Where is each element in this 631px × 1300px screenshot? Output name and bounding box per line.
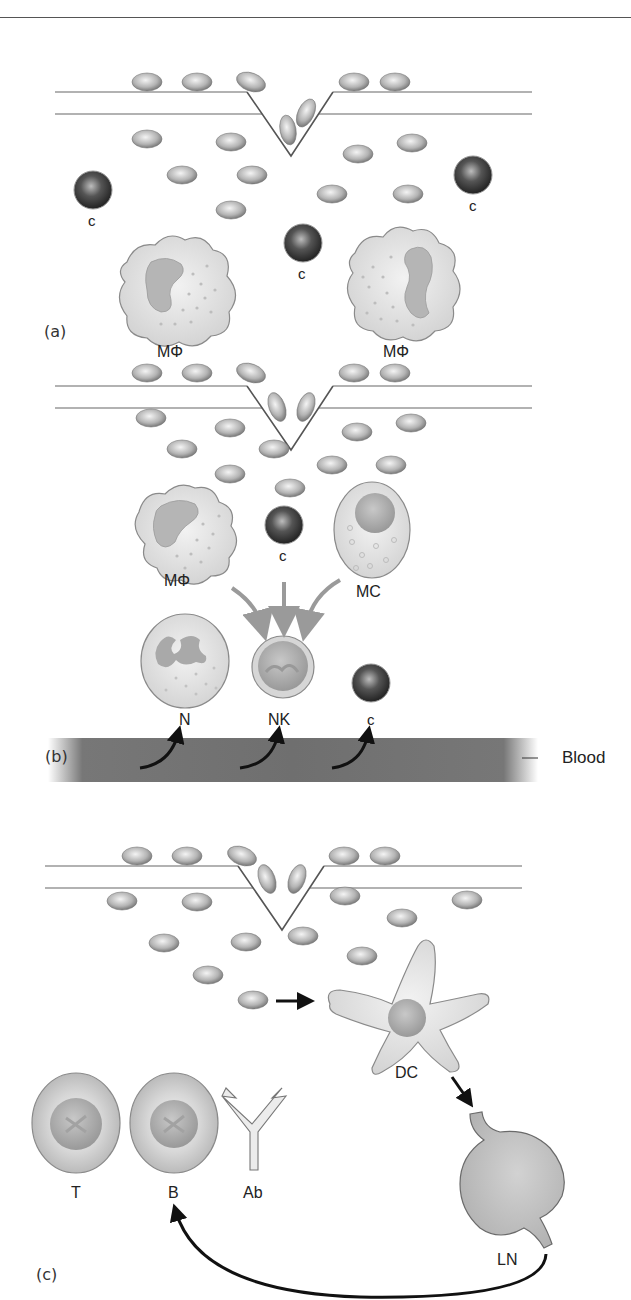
grey-arrows [232,580,340,626]
label-complement-b2: c [367,712,375,727]
microbe [284,862,309,896]
microbe [393,185,423,203]
microbe [234,359,268,386]
microbe [237,166,267,184]
neutrophil [141,614,229,708]
microbe [132,130,162,148]
dc-to-ln-arrow [452,1077,468,1100]
microbe [317,185,347,203]
arrow-blood-to-complement [332,734,368,768]
microbe [182,364,212,382]
microbe [347,947,377,965]
microbe [376,456,406,474]
microbe [380,364,410,382]
microbe [132,73,162,91]
macrophage-a-left [119,236,235,346]
microbe [215,419,245,437]
black-arrows-from-blood [140,734,368,768]
microbe [342,423,372,441]
microbe [339,364,369,382]
microbe [259,440,289,458]
microbe [215,465,245,483]
panel-label-a: (a) [44,322,66,341]
label-nk-cell: NK [268,712,290,728]
microbe [136,409,166,427]
complement-protein [284,224,322,262]
label-t-cell: T [71,1185,81,1201]
microbe [238,991,268,1009]
microbe [122,847,152,865]
epithelium-breach [247,386,333,450]
neutrophil-nucleus-lobes [155,636,206,667]
microbe [370,847,400,865]
microbe [172,847,202,865]
label-neutrophil: N [179,712,191,728]
microbe [149,934,179,952]
microbe [288,927,318,945]
label-complement-a2: c [298,266,306,281]
complement-protein [352,664,390,702]
nk-cell [252,636,314,698]
microbe [193,966,223,984]
panel-label-b: (b) [45,747,68,766]
arrow-blood-to-neutrophil [140,734,178,768]
epithelium-breach [238,866,324,930]
microbe [167,440,197,458]
microbe [254,862,279,896]
complement-protein [74,171,112,209]
microbe [387,909,417,927]
immune-response-diagram [0,0,631,1300]
label-complement-a1: c [88,213,96,228]
label-b-cell: B [168,1185,179,1201]
microbe [264,390,289,424]
microbe [330,887,360,905]
microbe [275,479,305,497]
label-antibody: Ab [243,1185,263,1201]
label-blood: Blood [562,749,605,766]
microbe [339,73,369,91]
antibody-icon [222,1088,286,1170]
microbe [396,414,426,432]
microbe [329,847,359,865]
microbe [107,892,137,910]
label-mast-cell: MC [356,584,381,600]
microbe [182,893,212,911]
b-cell [130,1073,218,1173]
complement-protein [265,506,303,544]
microbe [292,96,319,130]
microbe [317,456,347,474]
macrophage-a-right [347,227,460,341]
microbe [231,933,261,951]
dendritic-cell-nucleus [388,999,426,1037]
microbe [216,201,246,219]
microbe [343,145,373,163]
arrow-mastcell-to-nk [306,580,340,626]
label-macrophage-a2: MΦ [383,344,409,360]
label-complement-b1: c [279,548,287,563]
label-complement-a3: c [469,198,477,213]
microbe [397,134,427,152]
microbe [380,73,410,91]
microbe [216,133,246,151]
microbe [132,364,162,382]
mast-cell [334,482,410,578]
label-dendritic-cell: DC [395,1065,418,1081]
mast-cell-nucleus [355,493,395,533]
panel-label-c: (c) [36,1265,57,1284]
microbe [452,891,482,909]
label-macrophage-b: MΦ [164,573,190,589]
label-macrophage-a1: MΦ [157,344,183,360]
label-lymph-node: LN [497,1252,517,1268]
arrow-blood-to-nk [240,734,278,768]
microbe [182,73,212,91]
microbe [167,166,197,184]
t-cell [32,1073,120,1173]
lymph-node [460,1112,564,1248]
macrophage-b [135,485,236,584]
microbe [293,390,318,424]
complement-protein [454,156,492,194]
arrow-macrophage-to-nk [232,588,262,626]
